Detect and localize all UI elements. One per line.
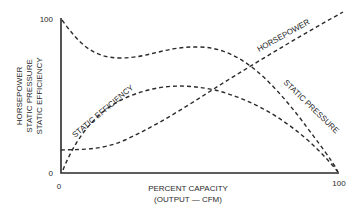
x-axis-sublabel: (OUTPUT — CFM) xyxy=(154,195,222,204)
y-axis-label-horsepower: HORSEPOWER xyxy=(15,66,24,125)
y-tick-0: 0 xyxy=(49,169,54,178)
static-efficiency-curve-label: STATIC EFFICIENCY xyxy=(71,83,136,140)
y-axis-label-static-pressure: STATIC PRESSURE xyxy=(25,59,34,133)
y-axis-label: HORSEPOWER STATIC PRESSURE STATIC EFFICI… xyxy=(15,57,44,135)
fan-performance-chart: 100 0 0 100 PERCENT CAPACITY (OUTPUT — C… xyxy=(0,0,361,222)
y-axis-label-static-efficiency: STATIC EFFICIENCY xyxy=(35,57,44,135)
x-tick-100: 100 xyxy=(332,179,346,188)
horsepower-curve xyxy=(61,12,343,150)
horsepower-curve-label: HORSEPOWER xyxy=(256,17,312,53)
x-axis-label: PERCENT CAPACITY xyxy=(148,184,228,193)
x-tick-0: 0 xyxy=(57,182,62,191)
y-tick-100: 100 xyxy=(40,15,54,24)
